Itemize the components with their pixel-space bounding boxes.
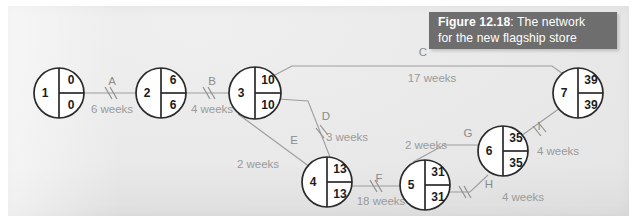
figure-page: .edge{stroke:#9e9e9e;stroke-width:1.1;fi…: [0, 0, 637, 224]
edge-B-2-to-3: [186, 87, 229, 99]
node-7-number: 7: [561, 86, 568, 100]
event-node-5[interactable]: 5 31 31: [400, 160, 450, 210]
activity-duration-D: 3 weeks: [326, 131, 368, 143]
event-node-3[interactable]: 3 10 10: [229, 67, 281, 119]
node-6-number: 6: [486, 144, 493, 158]
figure-caption-rest: : The network: [510, 15, 585, 29]
activity-label-I: I: [537, 120, 540, 132]
activity-duration-H: 4 weeks: [502, 191, 544, 203]
node-2-number: 2: [144, 86, 151, 100]
activity-duration-B: 4 weeks: [191, 103, 233, 115]
activity-label-C: C: [419, 46, 427, 58]
node-5-earliest-time: 31: [431, 165, 445, 179]
node-3-earliest-time: 10: [261, 73, 275, 87]
node-2-latest-time: 6: [170, 98, 177, 112]
activity-label-B: B: [208, 75, 216, 87]
node-6-latest-time: 35: [509, 156, 523, 170]
activity-duration-E: 2 weeks: [237, 158, 279, 170]
node-7-earliest-time: 39: [584, 73, 598, 87]
node-2-earliest-time: 6: [170, 73, 177, 87]
figure-caption-line2: for the new flagship store: [438, 31, 577, 45]
node-3-number: 3: [238, 86, 245, 100]
node-4-latest-time: 13: [333, 187, 347, 201]
node-6-earliest-time: 35: [509, 131, 523, 145]
event-node-7[interactable]: 7 39 39: [553, 68, 603, 118]
activity-label-G: G: [464, 127, 473, 139]
edge-D-3-to-4: [278, 99, 330, 157]
event-node-6[interactable]: 6 35 35: [478, 126, 528, 176]
node-4-number: 4: [310, 175, 317, 189]
figure-caption-prefix: Figure 12.18: [438, 15, 510, 29]
activity-duration-F: 18 weeks: [357, 195, 406, 207]
edge-H-5-to-6: [448, 175, 488, 198]
activity-label-H: H: [485, 178, 493, 190]
node-1-number: 1: [42, 86, 49, 100]
node-3-latest-time: 10: [261, 98, 275, 112]
activity-duration-A: 6 weeks: [91, 103, 133, 115]
activity-label-A: A: [108, 75, 116, 87]
activity-label-E: E: [290, 134, 298, 146]
event-node-2[interactable]: 2 6 6: [136, 68, 186, 118]
event-node-4[interactable]: 4 13 13: [302, 157, 352, 207]
activity-duration-G: 2 weeks: [405, 139, 447, 151]
node-1-latest-time: 0: [68, 98, 75, 112]
activity-label-F: F: [375, 172, 382, 184]
edge-A-1-to-2: [84, 87, 136, 99]
figure-caption: Figure 12.18: The network for the new fl…: [429, 12, 617, 49]
node-5-latest-time: 31: [431, 190, 445, 204]
event-node-1[interactable]: 1 0 0: [34, 68, 84, 118]
node-4-earliest-time: 13: [333, 162, 347, 176]
activity-duration-I: 4 weeks: [537, 145, 579, 157]
node-1-earliest-time: 0: [68, 73, 75, 87]
activity-duration-C: 17 weeks: [408, 72, 457, 84]
activity-label-D: D: [322, 110, 330, 122]
node-5-number: 5: [408, 178, 415, 192]
node-7-latest-time: 39: [584, 98, 598, 112]
